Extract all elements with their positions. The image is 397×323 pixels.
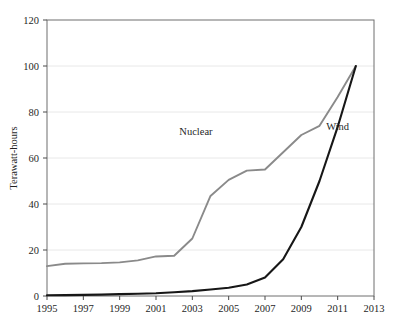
x-tick-label-2011: 2011 [327,303,348,314]
y-tick-label-0: 0 [34,291,39,302]
y-tick-label-40: 40 [29,199,40,210]
x-tick-label-2003: 2003 [182,303,203,314]
x-tick-label-1999: 1999 [109,303,130,314]
y-tick-label-20: 20 [29,245,40,256]
y-tick-label-80: 80 [29,107,40,118]
line-chart: 020406080100120 199519971999200120032005… [0,0,397,323]
x-tick-label-1995: 1995 [37,303,58,314]
x-axis-ticks: 1995199719992001200320052007200920112013 [37,296,385,314]
series-label-nuclear: Nuclear [179,126,213,137]
y-tick-label-60: 60 [29,153,40,164]
y-axis-ticks: 020406080100120 [23,15,47,302]
x-tick-label-2007: 2007 [255,303,276,314]
chart-container: 020406080100120 199519971999200120032005… [0,0,397,323]
x-tick-label-2009: 2009 [291,303,312,314]
y-axis-label: Terawatt-hours [8,126,19,189]
y-tick-label-100: 100 [23,61,39,72]
x-tick-label-2001: 2001 [146,303,167,314]
x-tick-label-1997: 1997 [73,303,94,314]
y-tick-label-120: 120 [23,15,39,26]
x-tick-label-2013: 2013 [364,303,385,314]
series-label-wind: Wind [326,121,350,132]
x-tick-label-2005: 2005 [218,303,239,314]
y-axis-label-text: Terawatt-hours [8,126,19,189]
